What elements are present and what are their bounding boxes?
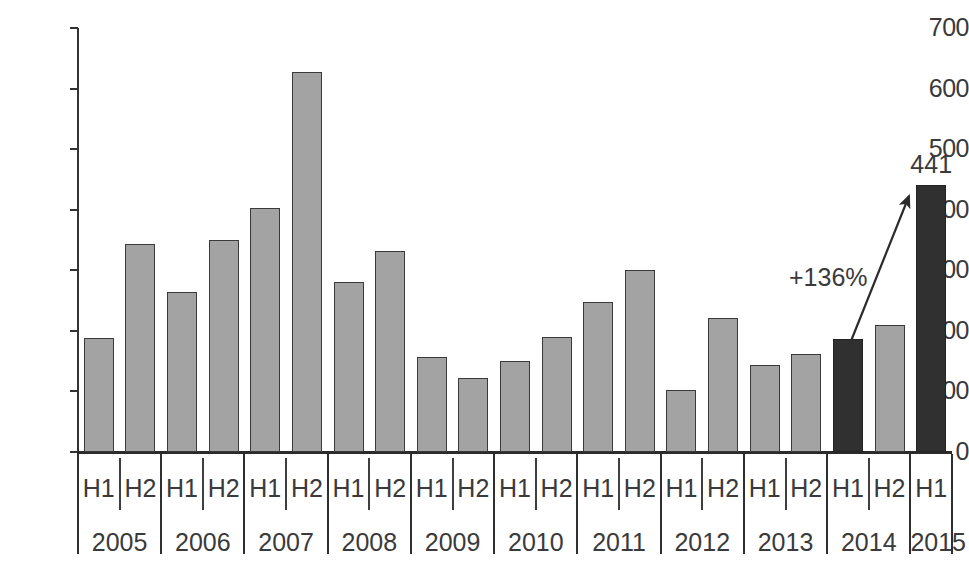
bar — [417, 357, 447, 452]
bar — [666, 390, 696, 452]
x-axis-year-group: H1H22005 — [78, 454, 161, 556]
x-axis-year-separator — [743, 454, 745, 554]
x-axis-half-label: H2 — [869, 476, 911, 501]
x-axis-half-label: H2 — [369, 476, 411, 501]
x-axis-year-label: 2009 — [411, 530, 494, 555]
bar — [500, 361, 530, 452]
x-axis-half-label: H1 — [411, 476, 453, 501]
x-axis-year-separator — [243, 454, 245, 554]
x-axis-year-group: H1H22013 — [744, 454, 827, 556]
x-axis-year-group: H12015 — [910, 454, 952, 556]
bar — [916, 185, 946, 452]
bar — [542, 337, 572, 452]
x-axis-half-label: H2 — [453, 476, 495, 501]
x-axis-half-label: H1 — [494, 476, 536, 501]
x-axis-year-separator — [410, 454, 412, 554]
bar-value-label: 441 — [891, 152, 969, 177]
x-axis-half-separator — [119, 458, 121, 510]
bar — [583, 302, 613, 452]
x-axis-half-separator — [701, 458, 703, 510]
x-axis-half-label: H1 — [78, 476, 120, 501]
bar — [167, 292, 197, 453]
bar-chart: 0100200300400500600700 441+136% H1H22005… — [0, 0, 969, 569]
bar — [292, 72, 322, 452]
x-axis-year-group: H1H22008 — [328, 454, 411, 556]
x-axis-year-separator — [493, 454, 495, 554]
x-axis-year-label: 2012 — [661, 530, 744, 555]
x-axis-year-group: H1H22014 — [827, 454, 910, 556]
x-axis-half-label: H2 — [786, 476, 828, 501]
plot-area — [78, 28, 952, 452]
x-axis-half-label: H1 — [910, 476, 952, 501]
x-axis-half-label: H1 — [577, 476, 619, 501]
x-axis-year-label: 2008 — [328, 530, 411, 555]
x-axis-year-label: 2007 — [244, 530, 327, 555]
x-axis-category-table: H1H22005H1H22006H1H22007H1H22008H1H22009… — [78, 454, 952, 556]
x-axis-half-separator — [868, 458, 870, 510]
x-axis-year-label: 2013 — [744, 530, 827, 555]
x-axis-half-label: H1 — [161, 476, 203, 501]
bar — [625, 270, 655, 452]
bar — [833, 339, 863, 452]
x-axis-half-separator — [202, 458, 204, 510]
x-axis-year-group: H1H22009 — [411, 454, 494, 556]
x-axis-year-label: 2015 — [910, 530, 952, 555]
x-axis-half-label: H1 — [328, 476, 370, 501]
x-axis-year-label: 2005 — [78, 530, 161, 555]
x-axis-year-group: H1H22011 — [577, 454, 660, 556]
x-axis-year-group: H1H22007 — [244, 454, 327, 556]
x-axis-half-separator — [368, 458, 370, 510]
bar — [708, 318, 738, 452]
bar — [84, 338, 114, 452]
x-axis-half-label: H1 — [744, 476, 786, 501]
x-axis-year-label: 2006 — [161, 530, 244, 555]
x-axis-half-label: H1 — [661, 476, 703, 501]
x-axis-year-separator — [327, 454, 329, 554]
x-axis-half-separator — [618, 458, 620, 510]
x-axis-half-separator — [452, 458, 454, 510]
x-axis-year-separator — [951, 454, 953, 554]
x-axis-year-label: 2011 — [577, 530, 660, 555]
bar — [334, 282, 364, 452]
x-axis-half-label: H1 — [827, 476, 869, 501]
x-axis-year-label: 2010 — [494, 530, 577, 555]
x-axis-half-label: H1 — [244, 476, 286, 501]
growth-percent-label: +136% — [789, 265, 868, 290]
bar — [791, 354, 821, 452]
x-axis-year-separator — [826, 454, 828, 554]
x-axis-half-separator — [285, 458, 287, 510]
x-axis-half-separator — [785, 458, 787, 510]
x-axis-year-group: H1H22012 — [661, 454, 744, 556]
x-axis-year-separator — [160, 454, 162, 554]
x-axis-half-label: H2 — [536, 476, 578, 501]
x-axis-year-separator — [909, 454, 911, 554]
bar — [209, 240, 239, 452]
bar — [875, 325, 905, 452]
x-axis-half-label: H2 — [286, 476, 328, 501]
x-axis-year-label: 2014 — [827, 530, 910, 555]
bar — [458, 378, 488, 452]
x-axis-half-separator — [535, 458, 537, 510]
x-axis-half-label: H2 — [120, 476, 162, 501]
x-axis-year-separator — [660, 454, 662, 554]
bar — [375, 251, 405, 452]
x-axis-year-separator — [77, 454, 79, 554]
x-axis-half-label: H2 — [203, 476, 245, 501]
x-axis-year-group: H1H22010 — [494, 454, 577, 556]
bar — [750, 365, 780, 452]
bar — [125, 244, 155, 452]
x-axis-year-separator — [576, 454, 578, 554]
x-axis-half-label: H2 — [702, 476, 744, 501]
x-axis-year-group: H1H22006 — [161, 454, 244, 556]
bar — [250, 208, 280, 452]
x-axis-half-label: H2 — [619, 476, 661, 501]
